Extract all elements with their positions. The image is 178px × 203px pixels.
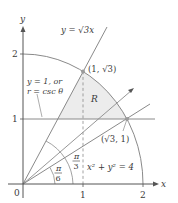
angle-pi3-denominator: 3: [74, 162, 79, 171]
angle-pi3-numerator: π: [73, 152, 80, 161]
region-label: R: [90, 94, 98, 104]
point-right-label: (√3, 1): [101, 134, 129, 144]
x-tick-label-1: 1: [80, 190, 86, 200]
polar-region-diagram: x y 0 1 2 1 2 y = √3x (1, √3) (√3, 1) R …: [0, 0, 178, 203]
line-y1-label-b: r = csc θ: [27, 87, 63, 96]
y-axis-arrow-icon: [21, 26, 26, 32]
circle-equation-label: x² + y² = 4: [87, 162, 134, 172]
line-y1-label-a: y = 1, or: [26, 77, 63, 86]
point-1-sqrt3: [81, 69, 85, 73]
angle-arc-pi6: [50, 168, 55, 185]
origin-label: 0: [14, 188, 20, 198]
line-sqrt3-label: y = √3x: [60, 25, 94, 35]
angle-pi6-numerator: π: [55, 164, 62, 173]
angle-pi6-denominator: 6: [56, 174, 61, 183]
point-sqrt3-1: [125, 117, 129, 121]
y-tick-label-1: 1: [12, 114, 18, 124]
x-axis-arrow-icon: [153, 182, 159, 187]
y-axis-label: y: [19, 14, 26, 24]
y-tick-label-2: 2: [12, 49, 18, 59]
point-top-label: (1, √3): [88, 64, 116, 74]
x-axis-label: x: [161, 179, 166, 189]
leader-line-y1: [37, 94, 42, 117]
x-tick-label-2: 2: [140, 190, 146, 200]
